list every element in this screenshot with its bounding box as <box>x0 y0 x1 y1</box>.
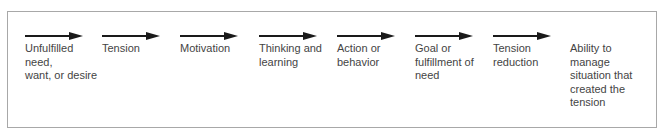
step-label: Ability to manage situation that created… <box>570 42 644 110</box>
step-label: Action or behavior <box>337 42 411 69</box>
arrow-right-icon <box>337 32 395 40</box>
step-label: Tension <box>102 42 176 56</box>
arrow-right-icon <box>102 32 160 40</box>
step-label: Tension reduction <box>493 42 567 69</box>
arrow-right-icon <box>415 32 473 40</box>
step-label: Motivation <box>180 42 254 56</box>
arrow-right-icon <box>259 32 317 40</box>
arrow-right-icon <box>25 32 83 40</box>
step-label: Goal or fulfillment of need <box>415 42 489 83</box>
arrow-right-icon <box>180 32 238 40</box>
step-label: Unfulfilled need, want, or desire <box>25 42 99 83</box>
arrow-right-icon <box>493 32 551 40</box>
step-label: Thinking and learning <box>259 42 333 69</box>
diagram-frame: Unfulfilled need, want, or desire Tensio… <box>7 11 657 128</box>
